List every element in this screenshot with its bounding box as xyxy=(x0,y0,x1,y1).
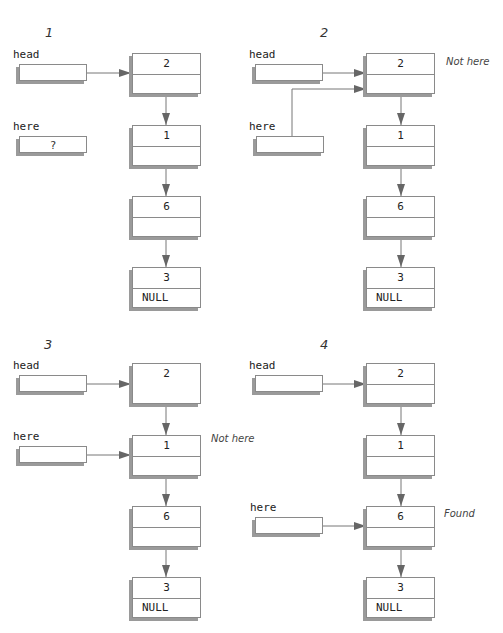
list-node: 2 xyxy=(132,363,201,404)
node-value: 1 xyxy=(133,126,200,147)
list-node: 2 xyxy=(132,53,201,94)
node-value: 2 xyxy=(367,54,434,75)
list-node: 6 xyxy=(132,506,201,547)
list-node: 1 xyxy=(132,435,201,476)
here-pointer-box: ? xyxy=(19,136,87,153)
node-next: NULL xyxy=(376,598,403,618)
list-node: 3 NULL xyxy=(132,577,201,618)
list-node: 3 NULL xyxy=(366,267,435,308)
panel-title: 4 xyxy=(320,337,328,352)
list-node: 3 NULL xyxy=(366,577,435,618)
node-value: 1 xyxy=(133,436,200,457)
node-next: NULL xyxy=(142,288,169,308)
list-node: 6 xyxy=(366,506,435,547)
head-pointer-box xyxy=(255,64,323,81)
node-value: 2 xyxy=(367,364,434,385)
list-node: 1 xyxy=(366,125,435,166)
list-node: 1 xyxy=(366,435,435,476)
panel-title: 1 xyxy=(45,25,53,40)
head-label: head xyxy=(13,48,40,61)
node-value: 6 xyxy=(133,507,200,528)
here-pointer-box xyxy=(255,517,323,534)
list-node: 6 xyxy=(132,196,201,237)
panel-title: 3 xyxy=(44,337,52,352)
node-value: 3 xyxy=(367,268,434,289)
head-label: head xyxy=(249,48,276,61)
search-status-note: Not here xyxy=(446,56,489,67)
node-value: 6 xyxy=(133,197,200,218)
list-node: 3 NULL xyxy=(132,267,201,308)
here-pointer-box xyxy=(256,136,324,153)
node-value: 2 xyxy=(133,364,200,384)
search-status-note: Found xyxy=(444,508,475,519)
node-value: 1 xyxy=(367,436,434,457)
node-value: 2 xyxy=(133,54,200,75)
node-value: 1 xyxy=(367,126,434,147)
here-label: here xyxy=(249,120,276,133)
list-node: 2 xyxy=(366,363,435,404)
here-label: here xyxy=(250,501,277,514)
list-node: 6 xyxy=(366,196,435,237)
node-value: 6 xyxy=(367,507,434,528)
node-value: 6 xyxy=(367,197,434,218)
here-pointer-box xyxy=(19,446,87,463)
node-value: 3 xyxy=(367,578,434,599)
node-next: NULL xyxy=(376,288,403,308)
head-pointer-box xyxy=(19,375,87,392)
head-label: head xyxy=(13,359,40,372)
list-node: 2 xyxy=(366,53,435,94)
head-label: head xyxy=(249,359,276,372)
here-label: here xyxy=(13,430,40,443)
panel-title: 2 xyxy=(320,25,328,40)
node-value: 3 xyxy=(133,268,200,289)
head-pointer-box xyxy=(255,375,323,392)
search-status-note: Not here xyxy=(211,433,254,444)
head-pointer-box xyxy=(19,64,87,81)
here-label: here xyxy=(13,120,40,133)
list-node: 1 xyxy=(132,125,201,166)
node-next: NULL xyxy=(142,598,169,618)
node-value: 3 xyxy=(133,578,200,599)
